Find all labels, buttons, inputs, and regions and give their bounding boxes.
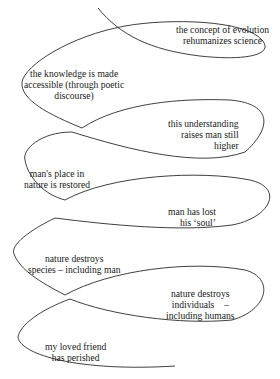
- label-destroys-individuals: nature destroys individuals – including …: [166, 288, 234, 321]
- label-place-restored: man's place in nature is restored: [24, 168, 90, 190]
- spiral-diagram: the concept of evolution rehumanizes sci…: [0, 0, 280, 379]
- label-destroys-species: nature destroys species – including man: [28, 253, 120, 275]
- label-knowledge-accessible: the knowledge is made accessible (throug…: [24, 68, 124, 101]
- label-understanding-raises: this understanding raises man still high…: [168, 118, 239, 151]
- label-friend-perished: my loved friend has perished: [45, 341, 106, 363]
- label-lost-soul: man has lost his ‘soul’: [168, 206, 216, 228]
- label-concept-evolution: the concept of evolution rehumanizes sci…: [176, 24, 269, 46]
